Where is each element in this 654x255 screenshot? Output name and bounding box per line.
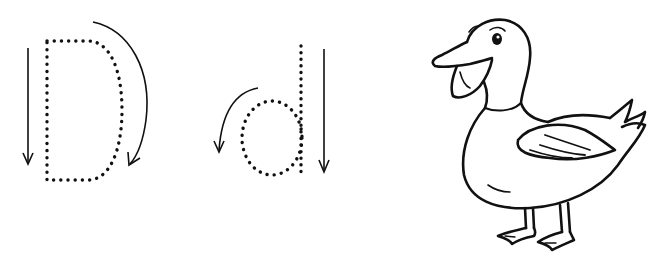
arrow-down-icon <box>23 48 33 164</box>
curved-arrow-counterclockwise-icon <box>214 88 258 152</box>
dotted-letter-d <box>242 46 302 176</box>
dotted-letter-D <box>47 41 122 180</box>
tracing-worksheet: D d duck <box>0 0 654 255</box>
arrow-down-icon <box>319 49 329 172</box>
uppercase-d-group <box>23 22 147 180</box>
lowercase-d-group <box>214 46 329 176</box>
duck-illustration <box>433 20 645 250</box>
